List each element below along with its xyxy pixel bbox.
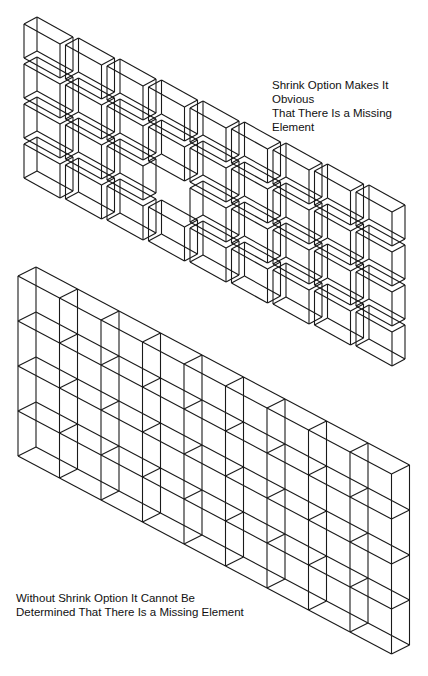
no-shrink-option-label: Without Shrink Option It Cannot Be Deter… <box>16 591 244 619</box>
no-shrink-label-line-1: Without Shrink Option It Cannot Be <box>16 591 244 605</box>
no-shrink-label-line-2: Determined That There Is a Missing Eleme… <box>16 605 244 619</box>
shrink-label-line-1: Shrink Option Makes It Obvious <box>272 78 428 106</box>
top-grid-boxes <box>24 17 405 366</box>
shrink-label-line-2: That There Is a Missing Element <box>272 106 428 134</box>
shrink-option-label: Shrink Option Makes It Obvious That Ther… <box>272 78 428 134</box>
